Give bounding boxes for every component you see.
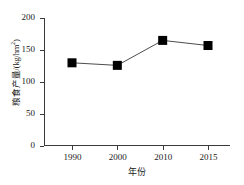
x-axis-tick: 1990 [72, 146, 73, 150]
x-axis-tick: 2000 [117, 146, 118, 150]
y-axis-title-main: 粮食产量/(kg/hm [11, 45, 21, 106]
y-axis-tick-label: 200 [22, 12, 36, 23]
y-axis-tick-label: 50 [26, 108, 35, 119]
y-axis-title: 粮食产量/(kg/hm2) [6, 0, 20, 145]
y-axis-tick-label: 150 [22, 44, 36, 55]
x-axis-tick-label: 2000 [109, 152, 127, 163]
x-axis-tick: 2015 [208, 146, 209, 150]
data-point-marker [204, 41, 213, 50]
plot-area: 050100150200 1990200020102015 [44, 18, 230, 146]
x-axis-title: 年份 [44, 166, 230, 178]
y-axis-tick-label: 100 [22, 76, 36, 87]
data-point-marker [113, 61, 122, 70]
y-axis-tick-label: 0 [31, 140, 36, 151]
data-series [44, 18, 230, 146]
series-line [72, 40, 208, 65]
x-axis-tick: 2010 [163, 146, 164, 150]
x-axis-tick-label: 1990 [64, 152, 82, 163]
data-point-marker [158, 36, 167, 45]
y-axis-tick: 0 [40, 146, 44, 147]
x-axis-tick-label: 2010 [154, 152, 172, 163]
data-point-marker [68, 58, 77, 67]
x-axis-tick-label: 2015 [200, 152, 218, 163]
y-axis-title-tail: ) [11, 39, 21, 42]
y-axis-title-superscript: 2 [10, 42, 16, 45]
chart-figure: 粮食产量/(kg/hm2) 050100150200 1990200020102… [0, 0, 244, 185]
